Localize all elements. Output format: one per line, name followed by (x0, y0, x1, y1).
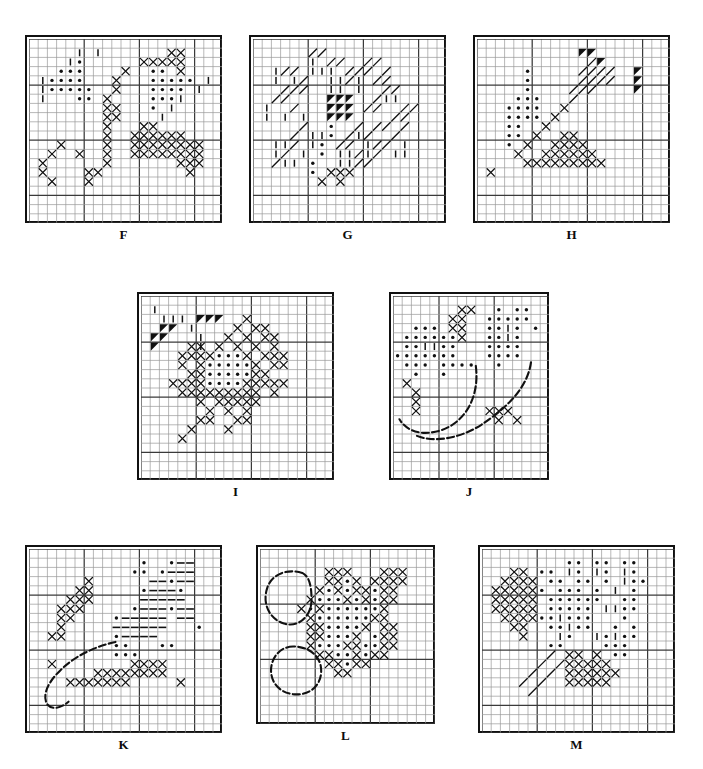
stitch-dot (623, 644, 626, 647)
stitch-slash (300, 86, 308, 94)
stitch-dot (170, 607, 173, 610)
stitch-dot (373, 607, 376, 610)
stitch-dot (69, 88, 72, 91)
stitch-cross (188, 380, 195, 387)
stitch-slash (291, 132, 299, 140)
stitch-cross (514, 417, 521, 424)
stitch-cross (76, 679, 83, 686)
chart-label-k: K (25, 737, 222, 753)
stitch-dot (311, 171, 314, 174)
stitch-dot (549, 579, 552, 582)
stitch-cross (113, 104, 120, 111)
stitch-tri (160, 333, 168, 341)
stitch-dot (355, 607, 358, 610)
stitch-dot (217, 372, 220, 375)
stitch-tri (588, 49, 596, 57)
stitch-dot (558, 579, 561, 582)
stitch-cross (225, 389, 232, 396)
stitch-cross (113, 114, 120, 121)
stitch-cross (524, 141, 531, 148)
stitch-dot (451, 336, 454, 339)
stitch-cross (104, 679, 111, 686)
stitch-cross (197, 361, 204, 368)
stitch-dot (236, 363, 239, 366)
stitch-cross (216, 343, 223, 350)
stitch-slash (281, 86, 289, 94)
stitch-dot (346, 653, 349, 656)
stitch-cross (362, 660, 369, 667)
stitch-cross (353, 633, 360, 640)
stitch-slash (588, 67, 596, 75)
stitch-dot (142, 561, 145, 564)
stitch-cross (150, 660, 157, 667)
stitch-cross (168, 132, 175, 139)
stitch-cross (593, 670, 600, 677)
stitch-cross (504, 407, 511, 414)
stitch-dot (442, 336, 445, 339)
stitch-dot (535, 106, 538, 109)
stitch-cross (271, 343, 278, 350)
stitch-dot (507, 134, 510, 137)
stitch-cross (390, 624, 397, 631)
pattern-chart-m: M (478, 545, 675, 755)
stitch-cross (150, 670, 157, 677)
pattern-chart-j: J (389, 292, 549, 502)
stitch-dot (577, 589, 580, 592)
stitch-tri (169, 324, 177, 332)
stitch-cross (188, 371, 195, 378)
stitch-dot (604, 570, 607, 573)
stitch-slash (355, 159, 363, 167)
stitch-dot (124, 644, 127, 647)
stitch-cross (487, 169, 494, 176)
stitch-cross (399, 578, 406, 585)
stitch-cross (131, 670, 138, 677)
stitch-dot (405, 363, 408, 366)
stitch-cross (381, 596, 388, 603)
stitch-dot (577, 570, 580, 573)
stitch-dot (151, 106, 154, 109)
stitch-cross (262, 325, 269, 332)
stitch-dot (327, 635, 330, 638)
stitch-cross (58, 141, 65, 148)
stitch-cross (449, 325, 456, 332)
stitch-slash (392, 132, 400, 140)
stitch-cross (316, 587, 323, 594)
stitch-dot (632, 579, 635, 582)
stitch-dot (526, 115, 529, 118)
stitch-slash (373, 141, 381, 149)
stitch-cross (520, 614, 527, 621)
stitch-dot (69, 79, 72, 82)
stitch-slash (538, 679, 546, 687)
stitch-cross (362, 596, 369, 603)
stitch-cross (520, 633, 527, 640)
stitch-dot (488, 336, 491, 339)
stitch-dot (327, 616, 330, 619)
chart-label-m: M (478, 737, 675, 753)
stitch-dot (568, 561, 571, 564)
stitch-dot (142, 570, 145, 573)
stitch-symbols-j (393, 296, 549, 480)
stitch-dot (506, 345, 509, 348)
stitch-dot (442, 363, 445, 366)
stitch-cross (570, 141, 577, 148)
chart-label-f: F (25, 227, 222, 243)
stitch-dot (623, 561, 626, 564)
stitch-cross (67, 614, 74, 621)
stitch-dot (170, 579, 173, 582)
stitch-cross (122, 679, 129, 686)
stitch-cross (520, 605, 527, 612)
stitch-cross (234, 389, 241, 396)
stitch-dot (170, 88, 173, 91)
pattern-chart-f: F (25, 35, 222, 245)
stitch-dot (327, 598, 330, 601)
stitch-dot (355, 598, 358, 601)
stitch-cross (570, 160, 577, 167)
stitch-cross (243, 389, 250, 396)
stitch-cross (520, 624, 527, 631)
stitch-cross (511, 568, 518, 575)
chart-border-i (137, 292, 334, 480)
stitch-dot (373, 635, 376, 638)
stitch-slash (291, 141, 299, 149)
stitch-dot (161, 644, 164, 647)
pattern-chart-l: L (256, 545, 435, 746)
